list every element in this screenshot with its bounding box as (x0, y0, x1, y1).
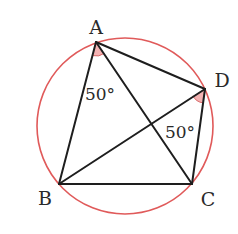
point-label-D: D (214, 69, 229, 91)
angle-label-D: 50° (165, 122, 195, 142)
segments (59, 42, 205, 184)
inscribed-angle-diagram: A B C D 50° 50° (0, 0, 238, 234)
point-label-A: A (88, 16, 103, 38)
angle-label-A: 50° (85, 84, 115, 104)
point-label-C: C (201, 188, 216, 210)
point-label-B: B (38, 187, 52, 209)
